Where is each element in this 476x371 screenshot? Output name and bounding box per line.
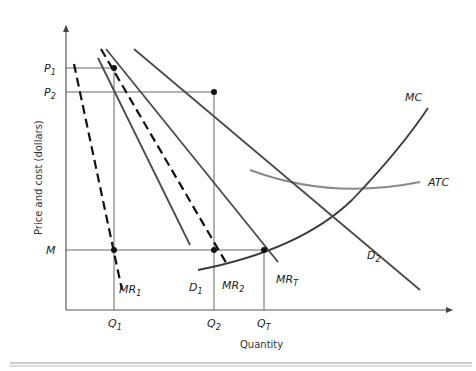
- atc-curve: [250, 170, 420, 189]
- point-q1-m: [111, 247, 117, 253]
- d2-line: [134, 49, 420, 290]
- point-q1-p1: [111, 65, 117, 71]
- tick-p2: P2: [44, 86, 56, 101]
- mrt-line: [106, 49, 278, 262]
- point-q2-m: [211, 247, 217, 253]
- label-mr2: MR2: [222, 279, 244, 294]
- tick-p1: P1: [44, 62, 56, 77]
- tick-q2: Q2: [207, 317, 221, 332]
- point-q2-p2: [211, 89, 217, 95]
- mr2-line: [101, 49, 228, 266]
- tick-q1: Q1: [108, 317, 122, 332]
- tick-m: M: [46, 244, 56, 257]
- price-discrimination-diagram: P1 P2 M Q1 Q2 QT MR1 D1 MR2 MRT D2 MC AT…: [0, 0, 476, 371]
- label-atc: ATC: [427, 176, 449, 189]
- mr1-line: [74, 64, 122, 290]
- label-d1: D1: [189, 281, 203, 296]
- label-mc: MC: [405, 91, 422, 104]
- label-mrt: MRT: [276, 273, 299, 288]
- d1-line: [98, 58, 190, 245]
- tick-qt: QT: [257, 317, 272, 332]
- label-d2: D2: [367, 249, 381, 264]
- x-axis-title: Quantity: [240, 339, 283, 350]
- y-axis-title: Price and cost (dollars): [33, 120, 44, 235]
- label-mr1: MR1: [119, 283, 141, 298]
- point-qt-m: [261, 247, 267, 253]
